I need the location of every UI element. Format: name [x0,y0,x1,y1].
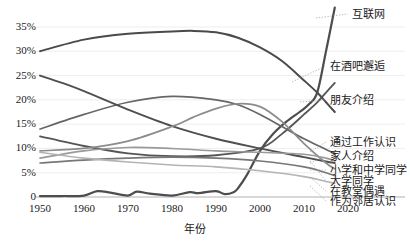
legend-label: 朋友介绍 [330,95,374,106]
chart-container: 05%10%15%20%25%30%35% 195019601970198019… [0,0,410,241]
series-legend: 互联网在酒吧邂逅朋友介绍通过工作认识家人介绍小学和中学同学大学同学在教堂偶遇作为… [0,0,410,241]
legend-label: 互联网 [352,9,385,20]
legend-label: 在酒吧邂逅 [330,61,385,72]
legend-label: 通过工作认识 [330,137,396,148]
legend-label: 作为邻居认识 [330,196,396,207]
legend-label: 家人介绍 [330,151,374,162]
